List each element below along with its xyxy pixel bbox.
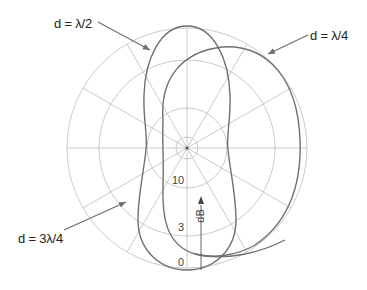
label-quarter-wave: d = λ/4 — [310, 28, 348, 43]
polar-diagram — [0, 0, 367, 290]
arrow-quarter-wave — [268, 35, 308, 54]
scale-unit-label: dB — [194, 209, 206, 222]
scale-tick-10: 10 — [172, 174, 184, 186]
label-three-quarter-wave: d = 3λ/4 — [18, 231, 63, 246]
scale-tick-0: 0 — [178, 256, 184, 268]
center-dot — [185, 146, 188, 149]
arrow-three-quarter-wave — [64, 202, 126, 230]
scale-tick-3: 3 — [178, 221, 184, 233]
db-arrow-icon — [198, 196, 204, 204]
label-half-wave: d = λ/2 — [54, 16, 92, 31]
